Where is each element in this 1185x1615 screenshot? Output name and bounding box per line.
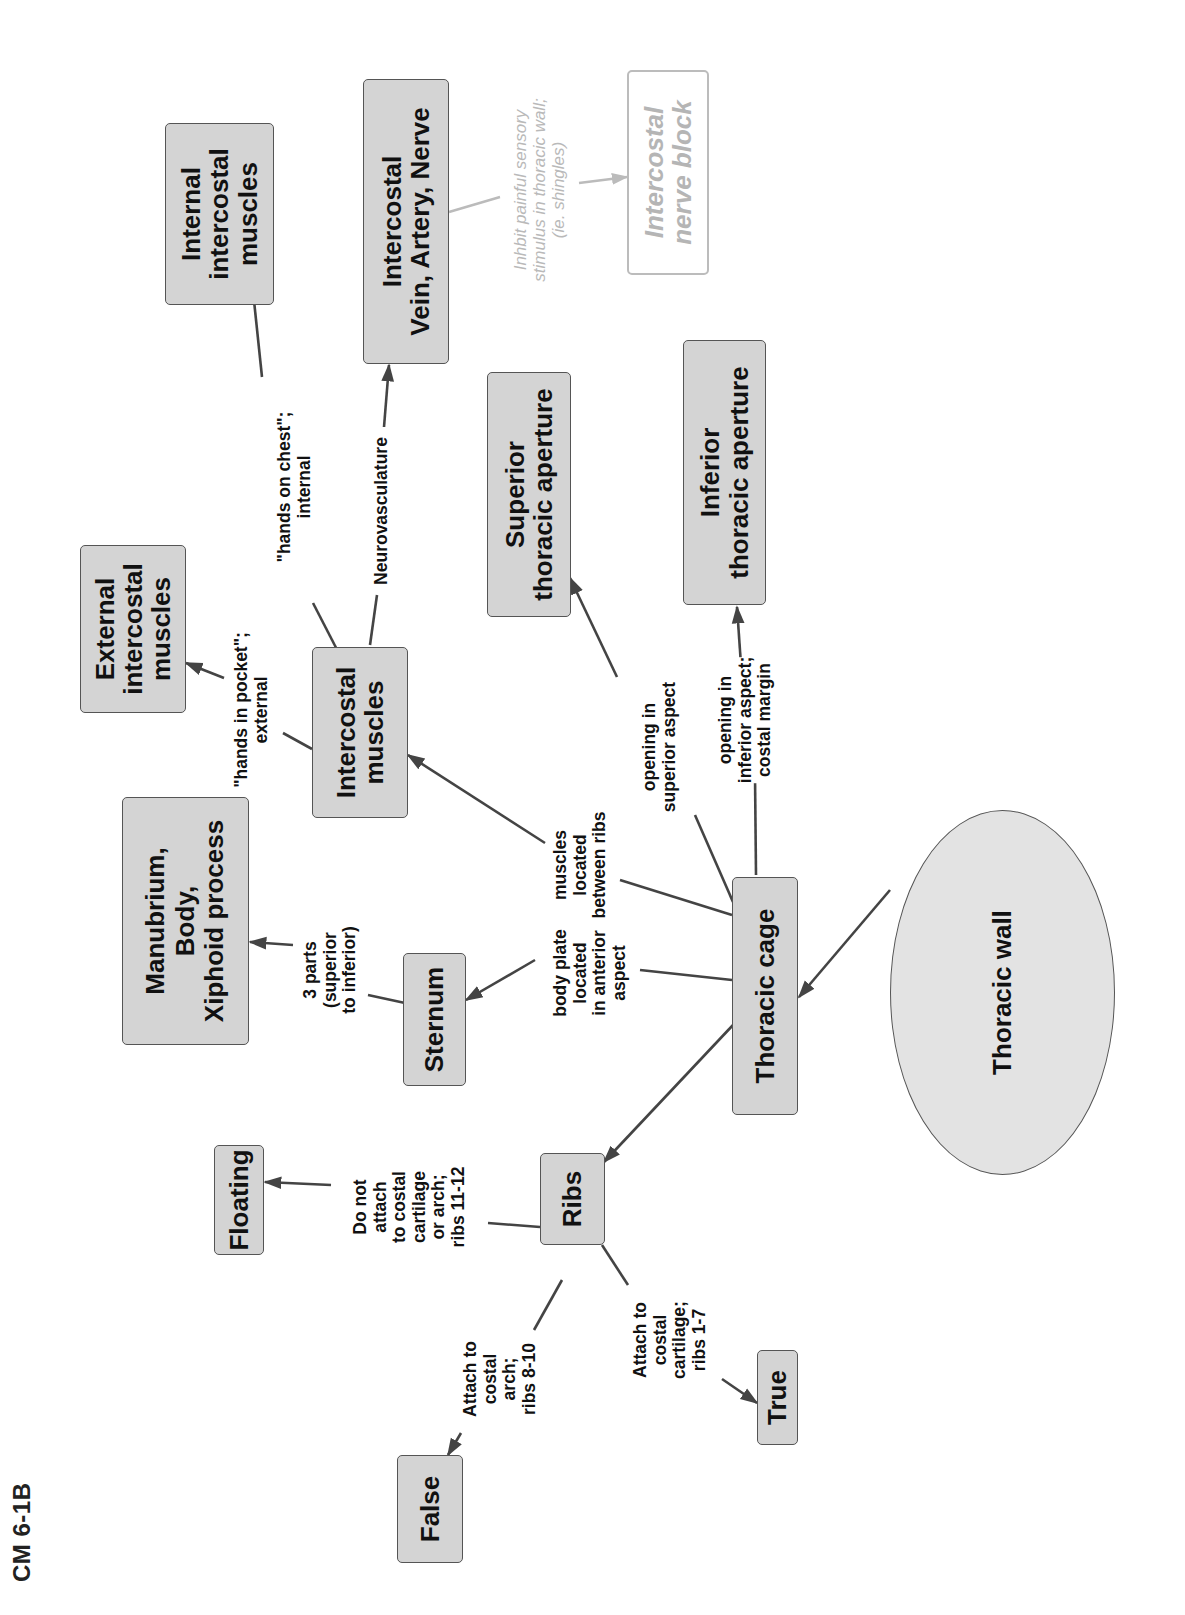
edge-ribs-false-a [534, 1280, 562, 1330]
node-label: Intercostal nerve block [640, 100, 696, 245]
edge-cage-ribs [604, 1025, 733, 1162]
edge-sternum-parts-b [250, 942, 293, 945]
edge-ribs-floating-b [265, 1182, 331, 1185]
node-internal-intercostal[interactable]: Internal intercostal muscles [165, 123, 274, 305]
edge-ribs-floating-a [488, 1223, 540, 1227]
edge-label-false: Attach to costal arch; ribs 8-10 [461, 1341, 539, 1417]
node-label: Intercostal Vein, Artery, Nerve [378, 107, 434, 335]
node-intercostal-van[interactable]: Intercostal Vein, Artery, Nerve [363, 79, 449, 364]
edge-muscles-external-a [283, 733, 312, 749]
edge-label-sternum: body plate located in anterior aspect [551, 929, 629, 1017]
edge-label-intercostal-van: Neurovasculature [372, 437, 392, 585]
edge-label-intercostal-muscles: muscles located between ribs [551, 812, 610, 919]
node-external-intercostal[interactable]: External intercostal muscles [80, 545, 186, 713]
concept-map: Thoracic wall Thoracic cage Sternum Manu… [0, 0, 1185, 1615]
node-label: Sternum [420, 967, 448, 1072]
node-label: Internal intercostal muscles [177, 148, 261, 280]
edge-ribs-false-b [448, 1433, 461, 1455]
node-true[interactable]: True [757, 1350, 798, 1445]
edge-cage-sternum-b [466, 960, 535, 1000]
edge-cage-superior-b [570, 578, 617, 677]
edge-van-nerveblock-b [579, 177, 627, 183]
node-label: Ribs [558, 1171, 586, 1227]
edge-label-floating: Do not attach to costal cartilage or arc… [351, 1167, 469, 1248]
edge-label-superior-aperture: opening in superior aspect [640, 682, 679, 812]
edge-ribs-true-b [722, 1379, 757, 1403]
node-label: Floating [225, 1149, 253, 1250]
edge-van-nerveblock-a [449, 197, 500, 212]
edge-muscles-van-b [384, 365, 389, 427]
node-label: Intercostal muscles [332, 667, 388, 799]
edge-wall-cage [799, 890, 890, 997]
node-label: Superior thoracic aperture [501, 388, 557, 600]
node-false[interactable]: False [397, 1455, 463, 1563]
edge-label-external-intercostal: "hands in pocket"; external [232, 632, 271, 788]
node-ribs[interactable]: Ribs [540, 1153, 605, 1245]
node-superior-aperture[interactable]: Superior thoracic aperture [487, 372, 571, 617]
node-label: External intercostal muscles [91, 563, 175, 695]
node-label: Thoracic cage [751, 909, 779, 1084]
node-thoracic-cage[interactable]: Thoracic cage [732, 877, 798, 1115]
node-intercostal-muscles[interactable]: Intercostal muscles [312, 647, 408, 818]
edge-label-inferior-aperture: opening in inferior aspect; costal margi… [716, 657, 775, 783]
node-nerve-block[interactable]: Intercostal nerve block [627, 70, 709, 275]
edge-cage-muscles-a [620, 880, 732, 915]
edge-cage-muscles-b [408, 755, 545, 843]
node-label: True [763, 1370, 791, 1425]
node-label: Thoracic wall [988, 910, 1016, 1075]
node-label: False [416, 1476, 444, 1543]
edge-cage-inferior-a [755, 775, 756, 875]
node-label: Manubrium, Body, Xiphoid process [141, 820, 231, 1022]
node-inferior-aperture[interactable]: Inferior thoracic aperture [683, 340, 766, 605]
edge-label-nerve-block: Inhbit painful sensory stimulus in thora… [511, 98, 568, 281]
node-floating[interactable]: Floating [214, 1145, 264, 1255]
edge-muscles-external-b [186, 663, 224, 678]
edge-cage-sternum-a [640, 970, 732, 980]
node-sternum[interactable]: Sternum [403, 953, 466, 1086]
edge-cage-superior-a [695, 815, 733, 902]
node-sternum-parts[interactable]: Manubrium, Body, Xiphoid process [122, 797, 249, 1045]
edge-muscles-van-a [370, 595, 377, 645]
node-label: Inferior thoracic aperture [696, 366, 752, 578]
edge-label-internal-intercostal: "hands on chest"; internal [275, 412, 314, 563]
edge-label-true: Attach to costal cartilage; ribs 1-7 [631, 1301, 709, 1379]
edge-ribs-true-a [602, 1245, 628, 1285]
edge-sternum-parts-a [368, 995, 405, 1003]
node-thoracic-wall[interactable]: Thoracic wall [890, 810, 1115, 1175]
edge-label-sternum-parts: 3 parts (superior to inferior) [301, 926, 360, 1014]
